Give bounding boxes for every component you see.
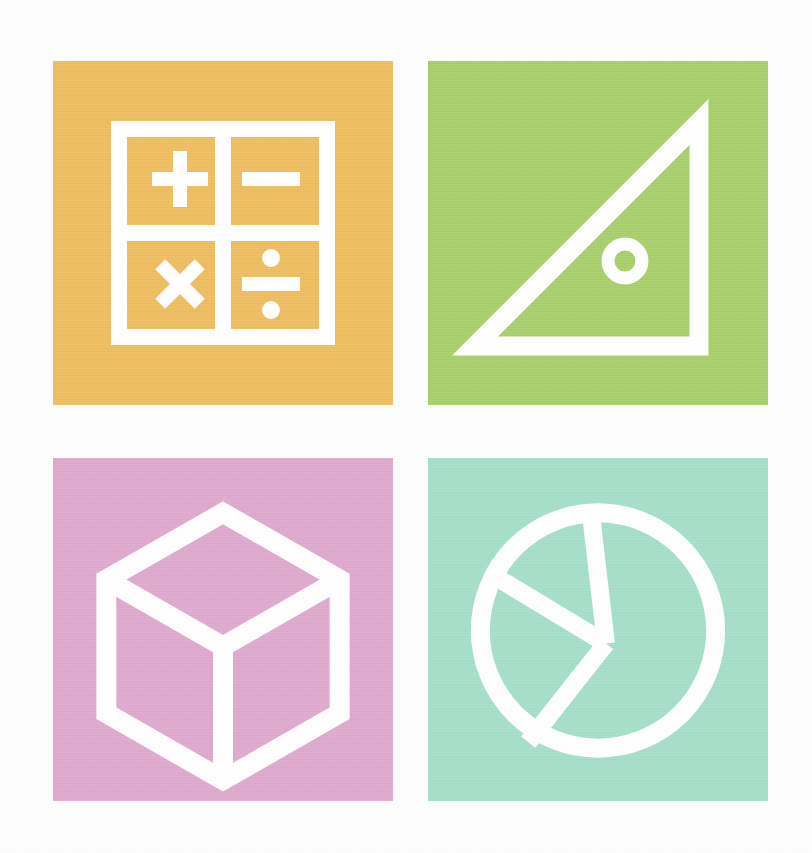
tile-isometric-cube[interactable] — [53, 458, 393, 801]
isometric-cube-icon — [53, 458, 393, 801]
tile-pie-chart[interactable] — [428, 458, 768, 801]
tile-arithmetic-operations[interactable] — [53, 61, 393, 405]
arithmetic-operations-icon — [53, 61, 393, 405]
icon-tile-grid — [53, 61, 768, 801]
minus-symbol — [242, 172, 300, 186]
tile-set-square-triangle[interactable] — [428, 61, 768, 405]
pie-chart-icon — [428, 458, 768, 801]
set-square-triangle-icon — [428, 61, 768, 405]
